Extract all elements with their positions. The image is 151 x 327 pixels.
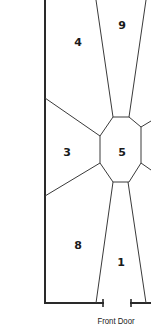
divider-top-right	[129, 0, 146, 117]
divider-top-left	[96, 0, 113, 117]
zone-label-9: 9	[118, 20, 126, 31]
divider-upper-right	[141, 121, 151, 127]
zone-label-1: 1	[117, 257, 125, 268]
floor-plan-diagram	[0, 0, 151, 327]
divider-lower-left	[45, 163, 100, 196]
door-jambs	[103, 299, 131, 307]
outer-walls	[45, 0, 151, 303]
divider-bottom-right	[128, 182, 146, 303]
divider-upper-left	[45, 98, 100, 136]
divider-lower-right	[141, 163, 151, 170]
divider-bottom-left	[96, 182, 113, 303]
zone-label-4: 4	[74, 37, 82, 48]
front-door-caption: Front Door	[97, 316, 134, 326]
zone-label-8: 8	[74, 240, 82, 251]
zone-dividers	[45, 0, 151, 303]
zone-label-5: 5	[118, 147, 126, 158]
zone-label-3: 3	[63, 147, 71, 158]
